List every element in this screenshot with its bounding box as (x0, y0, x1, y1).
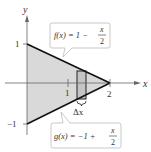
g-callout-num: x (110, 126, 115, 135)
g-callout-lhs: g(x) = −1 + (54, 131, 96, 141)
x-tick-label-1: 1 (65, 88, 70, 98)
f-callout: f(x) = 1 − x 2 (50, 23, 110, 57)
shaded-region (27, 44, 110, 124)
delta-x-brace (77, 101, 86, 106)
g-callout-den: 2 (111, 138, 115, 147)
y-tick-label-1: 1 (15, 39, 20, 49)
area-diagram: x y 1 2 1 −1 Δx f(x) = 1 − x 2 g(x) = −1… (0, 0, 151, 152)
y-axis-label: y (22, 4, 28, 15)
x-axis-arrow-icon (134, 81, 141, 85)
delta-x-label: Δx (73, 107, 84, 117)
f-callout-num: x (99, 25, 104, 34)
x-tick-label-2: 2 (107, 89, 112, 99)
g-callout: g(x) = −1 + x 2 (51, 112, 121, 148)
x-axis-label: x (142, 78, 148, 89)
f-callout-lhs: f(x) = 1 − (54, 30, 88, 40)
f-callout-den: 2 (100, 37, 104, 46)
y-tick-label-neg1: −1 (7, 119, 17, 129)
y-axis-arrow-icon (25, 15, 29, 22)
